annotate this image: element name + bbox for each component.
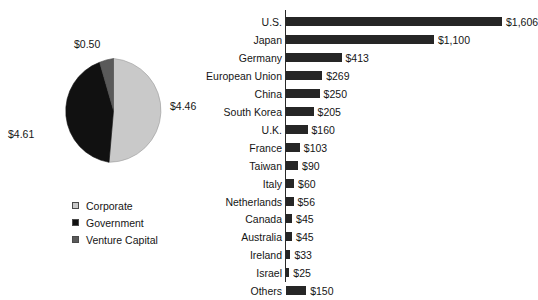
bar-chart-row: South Korea$205	[200, 103, 514, 121]
bar-chart-row: Canada$45	[200, 210, 514, 228]
bar-chart-row: U.S.$1,606	[200, 13, 514, 31]
pie-legend-item: Venture Capital	[72, 231, 202, 248]
bar-chart-panel: U.S.$1,606Japan$1,100Germany$413European…	[200, 0, 514, 291]
pie-chart-svg	[61, 58, 166, 163]
bar-rect	[286, 268, 289, 277]
bar-category-label: U.K.	[262, 123, 282, 137]
bar-value-label: $205	[318, 105, 341, 119]
bar-category-label: Germany	[239, 51, 282, 65]
bar-rect	[286, 232, 292, 241]
bar-value-label: $45	[296, 212, 314, 226]
pie-legend-item: Government	[72, 214, 202, 231]
bar-rect	[286, 214, 292, 223]
pie-label-venture-capital: $0.50	[74, 38, 100, 50]
bar-value-label: $150	[310, 284, 333, 298]
bar-category-label: Ireland	[250, 248, 282, 262]
bar-chart-row: Ireland$33	[200, 246, 514, 264]
bar-category-label: France	[249, 141, 282, 155]
bar-chart-row: China$250	[200, 85, 514, 103]
bar-chart-row: Germany$413	[200, 49, 514, 67]
bar-chart-row: Others$150	[200, 282, 514, 300]
bar-value-label: $33	[294, 248, 312, 262]
bar-rect	[286, 143, 300, 152]
bar-category-label: Others	[250, 284, 282, 298]
bar-chart-row: Australia$45	[200, 228, 514, 246]
pie-legend: CorporateGovernmentVenture Capital	[72, 197, 202, 248]
pie-slice-corporate	[109, 59, 161, 163]
bar-value-label: $1,606	[506, 15, 538, 29]
pie-legend-label: Government	[86, 217, 144, 229]
bar-category-label: Japan	[253, 33, 282, 47]
bar-category-label: Italy	[263, 177, 282, 191]
bar-value-label: $160	[312, 123, 335, 137]
pie-label-government: $4.61	[8, 128, 34, 140]
bar-chart-row: U.K.$160	[200, 121, 514, 139]
bar-category-label: European Union	[206, 69, 282, 83]
pie-legend-label: Venture Capital	[86, 234, 158, 246]
pie-legend-item: Corporate	[72, 197, 202, 214]
bar-rect	[286, 125, 308, 134]
bar-category-label: Israel	[256, 266, 282, 280]
bar-value-label: $413	[346, 51, 369, 65]
bar-rect	[286, 35, 434, 44]
bar-value-label: $25	[293, 266, 311, 280]
bar-rect	[286, 179, 294, 188]
bar-category-label: Taiwan	[249, 159, 282, 173]
bar-rect	[286, 71, 322, 80]
bar-value-label: $250	[324, 87, 347, 101]
bar-rect	[286, 250, 290, 259]
bar-value-label: $56	[298, 195, 316, 209]
bar-rect	[286, 17, 502, 26]
pie-chart-panel: $0.50 $4.61 $4.46 CorporateGovernmentVen…	[0, 0, 200, 291]
pie-label-corporate: $4.46	[170, 100, 196, 112]
bar-value-label: $60	[298, 177, 316, 191]
bar-value-label: $1,100	[438, 33, 470, 47]
bar-chart-row: European Union$269	[200, 67, 514, 85]
bar-value-label: $90	[302, 159, 320, 173]
bar-category-label: U.S.	[262, 15, 282, 29]
bar-rect	[286, 53, 342, 62]
bar-category-label: Netherlands	[225, 195, 282, 209]
pie-legend-label: Corporate	[86, 200, 133, 212]
bar-chart-row: France$103	[200, 139, 514, 157]
bar-category-label: Australia	[241, 230, 282, 244]
legend-swatch-icon	[72, 236, 79, 243]
bar-value-label: $269	[326, 69, 349, 83]
bar-chart-row: Japan$1,100	[200, 31, 514, 49]
pie-chart	[61, 58, 166, 163]
bar-chart-row: Israel$25	[200, 264, 514, 282]
bar-category-label: South Korea	[224, 105, 282, 119]
bar-chart-row: Italy$60	[200, 175, 514, 193]
bar-chart-row: Netherlands$56	[200, 193, 514, 211]
bar-rect	[286, 89, 320, 98]
bar-chart-row: Taiwan$90	[200, 157, 514, 175]
bar-value-label: $103	[304, 141, 327, 155]
bar-category-label: Canada	[245, 212, 282, 226]
bar-rect	[286, 107, 314, 116]
bar-category-label: China	[255, 87, 282, 101]
bar-rect	[286, 197, 294, 206]
bar-value-label: $45	[296, 230, 314, 244]
bar-rect	[286, 286, 306, 295]
bar-rect	[286, 161, 298, 170]
legend-swatch-icon	[72, 202, 79, 209]
legend-swatch-icon	[72, 219, 79, 226]
